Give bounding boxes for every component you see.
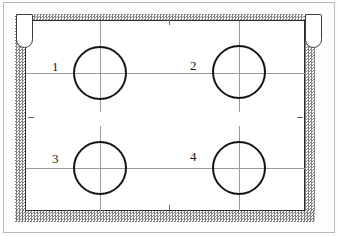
bore-label-1: 1 [52, 60, 59, 73]
bore-label-3: 3 [52, 152, 59, 165]
tube-left [16, 14, 33, 48]
tick-top [169, 20, 170, 25]
bore-label-2: 2 [190, 59, 197, 72]
figure-canvas: 1 2 3 4 [0, 0, 339, 236]
bore-circle-4 [212, 141, 266, 195]
tick-right [297, 117, 303, 118]
bore-circle-3 [73, 141, 127, 195]
bore-label-4: 4 [190, 150, 197, 163]
tube-right [305, 14, 322, 48]
bore-circle-2 [212, 45, 266, 99]
bore-circle-1 [73, 46, 127, 100]
tick-bottom [169, 205, 170, 210]
wall-band-bottom [15, 210, 315, 222]
tick-left [28, 117, 34, 118]
vessel-cavity [25, 20, 305, 211]
